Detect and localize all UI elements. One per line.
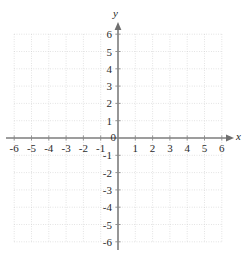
x-axis-arrow-icon [226, 135, 234, 142]
y-tick-label-3: 3 [98, 81, 112, 92]
y-tick-label--6: -6 [98, 237, 112, 248]
x-tick-label-4: 4 [179, 143, 195, 154]
x-tick-label--2: -2 [75, 143, 91, 154]
x-tick-label--4: -4 [41, 143, 57, 154]
y-tick-label--1: -1 [98, 150, 112, 161]
y-axis-arrow-icon [115, 22, 122, 30]
axis-lines [6, 28, 228, 250]
y-tick-label-5: 5 [98, 47, 112, 58]
y-tick-label--4: -4 [98, 202, 112, 213]
y-tick-label--5: -5 [98, 220, 112, 231]
y-tick-label--2: -2 [98, 168, 112, 179]
coordinate-plane-figure: -6 -5 -4 -3 -2 -1 1 2 3 4 5 6 6 5 4 3 2 … [0, 0, 246, 257]
y-tick-label-2: 2 [98, 98, 112, 109]
y-tick-label--3: -3 [98, 185, 112, 196]
y-axis-label: y [113, 8, 118, 19]
x-tick-label--6: -6 [6, 143, 22, 154]
x-tick-label-1: 1 [127, 143, 143, 154]
x-tick-label-5: 5 [197, 143, 213, 154]
x-tick-label-3: 3 [162, 143, 178, 154]
y-tick-label-1: 1 [98, 116, 112, 127]
axis-arrowheads [115, 22, 234, 141]
origin-label: 0 [104, 132, 116, 143]
y-tick-label-6: 6 [98, 29, 112, 40]
x-tick-label--5: -5 [24, 143, 40, 154]
x-tick-label-2: 2 [145, 143, 161, 154]
y-tick-label-4: 4 [98, 64, 112, 75]
x-tick-label--3: -3 [58, 143, 74, 154]
x-tick-label-6: 6 [214, 143, 230, 154]
x-axis-label: x [236, 131, 241, 142]
coordinate-plane-svg [0, 0, 246, 257]
